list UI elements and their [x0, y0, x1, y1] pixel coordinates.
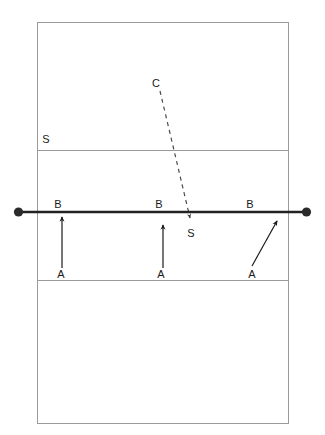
label-approach-start-middle: A	[157, 269, 165, 280]
label-block-position-right: B	[246, 199, 254, 210]
serve-path-dashed-line	[160, 91, 190, 218]
label-block-position-middle: B	[155, 199, 163, 210]
label-approach-start-right: A	[248, 269, 256, 280]
movement-arrow-right-blocker	[252, 221, 277, 266]
label-setter-backcourt: S	[42, 134, 50, 145]
label-block-position-left: B	[54, 199, 62, 210]
label-coach-serve-origin: C	[152, 78, 160, 89]
net-post-dot-right	[302, 207, 311, 216]
label-approach-start-left: A	[57, 269, 65, 280]
net-post-dot-left	[14, 207, 23, 216]
court-boundary	[38, 23, 289, 424]
label-serve-target: S	[187, 228, 195, 239]
court-drawing-canvas	[0, 0, 325, 435]
volleyball-court-diagram: S C B B B S A A A	[0, 0, 325, 435]
